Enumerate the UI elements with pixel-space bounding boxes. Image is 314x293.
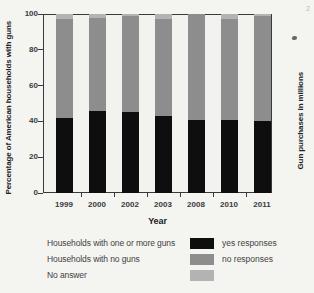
bar-segment-yes-responses-1999 xyxy=(56,118,73,193)
y-tick-label: 0 xyxy=(0,188,38,198)
scanned-chart-page: Percentage of American households with g… xyxy=(0,0,314,293)
bar-segment-no-answer-2010 xyxy=(221,14,238,19)
legend-row-no: Households with no guns no responses xyxy=(47,251,297,267)
x-tick-mark xyxy=(246,193,247,197)
x-tick-label-2000: 2000 xyxy=(80,200,114,209)
x-tick-label-2003: 2003 xyxy=(146,200,180,209)
x-tick-mark xyxy=(147,193,148,197)
legend-swatch-yes xyxy=(190,238,214,249)
bar-segment-no-answer-2011 xyxy=(254,14,271,16)
y-tick-label: 20 xyxy=(0,152,38,162)
bar-segment-no-answer-2000 xyxy=(89,14,106,18)
y-tick-label: 40 xyxy=(0,116,38,126)
bar-segment-no-responses-2003 xyxy=(155,19,172,116)
bar-segment-no-responses-1999 xyxy=(56,19,73,117)
scan-smudge-artifact xyxy=(292,36,297,40)
legend-row-yes: Households with one or more guns yes res… xyxy=(47,235,297,251)
bar-segment-no-answer-1999 xyxy=(56,14,73,19)
legend-swatch-no-answer xyxy=(190,270,214,281)
y-tick-mark xyxy=(38,49,43,50)
y-tick-label: 100 xyxy=(0,9,38,19)
bar-segment-no-answer-2002 xyxy=(122,14,139,16)
bar-segment-yes-responses-2011 xyxy=(254,121,271,193)
x-tick-label-2002: 2002 xyxy=(113,200,147,209)
legend-swatch-no xyxy=(190,254,214,265)
bar-segment-no-responses-2011 xyxy=(254,16,271,122)
x-tick-mark xyxy=(114,193,115,197)
bar-segment-yes-responses-2010 xyxy=(221,120,238,193)
legend-response: yes responses xyxy=(222,238,277,248)
bar-segment-no-responses-2000 xyxy=(89,18,106,111)
legend: Households with one or more guns yes res… xyxy=(47,235,297,283)
y-tick-mark xyxy=(38,85,43,86)
x-tick-mark xyxy=(81,193,82,197)
y-tick-mark xyxy=(38,121,43,122)
bar-segment-no-responses-2008 xyxy=(188,14,205,120)
x-tick-label-2010: 2010 xyxy=(212,200,246,209)
legend-label: No answer xyxy=(47,270,190,280)
y-axis-title-right: Gun purchases in millions xyxy=(296,72,305,170)
y-tick-label: 80 xyxy=(0,45,38,55)
x-tick-mark xyxy=(180,193,181,197)
bar-segment-yes-responses-2008 xyxy=(188,120,205,193)
bar-segment-yes-responses-2002 xyxy=(122,112,139,193)
y-tick-mark xyxy=(38,14,43,15)
legend-label: Households with no guns xyxy=(47,254,190,264)
bar-segment-no-answer-2003 xyxy=(155,14,172,19)
x-tick-label-1999: 1999 xyxy=(47,200,81,209)
bar-segment-no-responses-2010 xyxy=(221,19,238,119)
y-tick-mark xyxy=(38,157,43,158)
legend-label: Households with one or more guns xyxy=(47,238,190,248)
y-tick-mark xyxy=(38,193,43,194)
legend-row-no-answer: No answer xyxy=(47,267,297,283)
x-tick-mark xyxy=(213,193,214,197)
x-tick-label-2008: 2008 xyxy=(179,200,213,209)
legend-response: no responses xyxy=(222,254,273,264)
page-corner-mark: 2 xyxy=(306,5,310,12)
bar-segment-yes-responses-2000 xyxy=(89,111,106,193)
x-axis-title: Year xyxy=(43,216,272,226)
bar-segment-no-responses-2002 xyxy=(122,16,139,113)
x-tick-label-2011: 2011 xyxy=(245,200,279,209)
y-tick-label: 60 xyxy=(0,81,38,91)
bar-segment-yes-responses-2003 xyxy=(155,116,172,193)
